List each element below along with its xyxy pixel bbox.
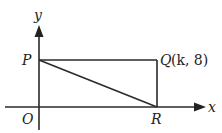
point-q-coords: (k, 8) — [171, 52, 208, 68]
point-p-label: P — [21, 52, 32, 68]
y-axis-arrowhead-icon — [35, 25, 44, 37]
coordinate-diagram: y x O P Q (k, 8) R — [0, 0, 222, 133]
segment-pr — [39, 60, 157, 107]
y-axis-label: y — [33, 7, 43, 23]
x-axis-arrowhead-icon — [194, 103, 206, 112]
origin-label: O — [22, 111, 34, 127]
x-axis-label: x — [208, 99, 216, 115]
point-r-label: R — [150, 111, 162, 127]
